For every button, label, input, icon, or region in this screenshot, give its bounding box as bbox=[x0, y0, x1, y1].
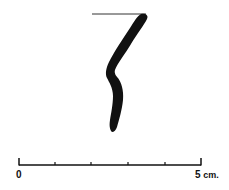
scale-start-label: 0 bbox=[16, 170, 22, 180]
pottery-profile-figure bbox=[0, 0, 229, 190]
scale-unit: cm. bbox=[203, 170, 219, 180]
sherd-profile bbox=[106, 14, 148, 132]
scale-end-label: 5 cm. bbox=[195, 170, 219, 180]
scale-end-value: 5 bbox=[195, 169, 201, 180]
